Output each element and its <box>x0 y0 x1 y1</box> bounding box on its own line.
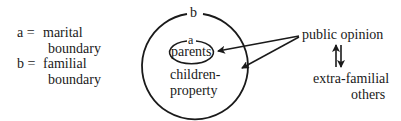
public-opinion-label: public opinion <box>302 28 383 42</box>
outer-boundary-label: b <box>190 6 197 20</box>
others-label: others <box>351 88 385 102</box>
children-label: children- <box>170 68 221 82</box>
diagram-canvas <box>0 0 401 121</box>
parents-label: parents <box>171 45 211 59</box>
property-label: property <box>170 84 217 98</box>
extra-familial-label: extra-familial <box>313 72 389 86</box>
